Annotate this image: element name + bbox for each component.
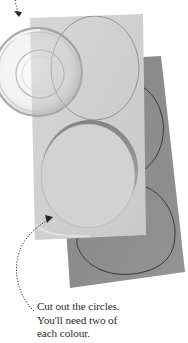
craft-step-illustration: Cut out the circles. You'll need two of … [0, 0, 188, 343]
caption-line: Cut out the circles. [37, 300, 182, 314]
dotted-arrow-to-bowl [14, 0, 22, 17]
glass-bowl [0, 28, 82, 116]
caption-line: each colour. [37, 327, 182, 341]
illustration-canvas [0, 0, 188, 343]
caption-line: You'll need two of [37, 314, 182, 328]
step-caption: Cut out the circles. You'll need two of … [37, 300, 182, 341]
